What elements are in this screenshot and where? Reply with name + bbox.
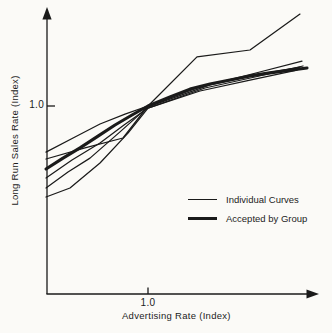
- legend-item-individual-curves: Individual Curves: [188, 194, 307, 204]
- y-axis-arrow-icon: [42, 7, 51, 20]
- curve-accepted-by-group: [46, 68, 307, 169]
- chart-canvas: [0, 0, 332, 333]
- thin-line-swatch-icon: [188, 199, 217, 200]
- curve-individual-1: [46, 14, 300, 152]
- y-axis-title: Long Run Sales Rate (Index): [9, 60, 22, 222]
- curve-individual-5: [46, 70, 297, 197]
- x-axis-title: Advertising Rate (Index): [122, 310, 231, 321]
- curve-individual-4: [46, 67, 300, 188]
- ticks-group: [47, 106, 148, 294]
- legend-label: Individual Curves: [226, 194, 299, 205]
- figure: 1.0 1.0 Advertising Rate (Index) Long Ru…: [0, 0, 332, 333]
- legend-item-accepted-by-group: Accepted by Group: [188, 213, 307, 223]
- x-axis-arrow-icon: [307, 289, 320, 298]
- curves-group: [46, 14, 307, 197]
- thick-line-swatch-icon: [188, 217, 217, 220]
- legend: Individual Curves Accepted by Group: [188, 194, 307, 223]
- y-tick-label: 1.0: [24, 99, 44, 110]
- x-tick-label: 1.0: [136, 297, 160, 308]
- legend-label: Accepted by Group: [226, 213, 307, 224]
